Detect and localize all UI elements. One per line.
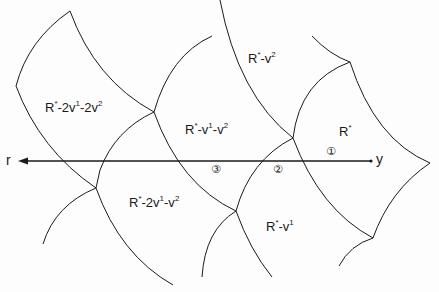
axis-label-y: y	[376, 152, 383, 166]
region-label-r-v2: R*-v2	[248, 52, 276, 65]
region-label-r-2v1-v2: R*-2v1-v2	[129, 196, 179, 209]
cell-edge	[43, 188, 96, 244]
region-label-r-2v1-2v2: R*-2v1-2v2	[45, 101, 103, 114]
cell-edge	[70, 11, 154, 112]
cell-edge	[393, 0, 430, 163]
region-label-r-v1-v2: R*-v1-v2	[185, 123, 228, 136]
cell-edge	[373, 163, 430, 238]
cell-edge	[352, 0, 430, 163]
cell-edge	[220, 0, 293, 138]
cell-edge	[16, 11, 70, 86]
diagram-lines	[0, 0, 439, 292]
cell-edge	[154, 36, 212, 112]
cell-edge	[339, 238, 373, 266]
marker-1: ①	[326, 146, 336, 157]
cell-edge	[350, 62, 430, 163]
cell-edge	[372, 5, 427, 60]
axis-label-r: r	[6, 153, 11, 167]
cell-edge	[236, 138, 293, 211]
region-label-r-star: R*	[339, 125, 352, 138]
lattice-diagram: r y ① ② ③ R*-2v1-2v2 R*-v2 R*-v1-v2 R* R…	[0, 0, 439, 292]
cell-edge	[312, 36, 350, 62]
arrow-left-icon	[18, 158, 28, 165]
region-label-r-v1: R*-v1	[266, 220, 294, 233]
cell-edge	[202, 211, 236, 277]
cell-edge	[96, 112, 154, 188]
marker-2: ②	[273, 164, 283, 175]
axis-end-dot	[369, 159, 372, 162]
marker-3: ③	[211, 164, 221, 175]
